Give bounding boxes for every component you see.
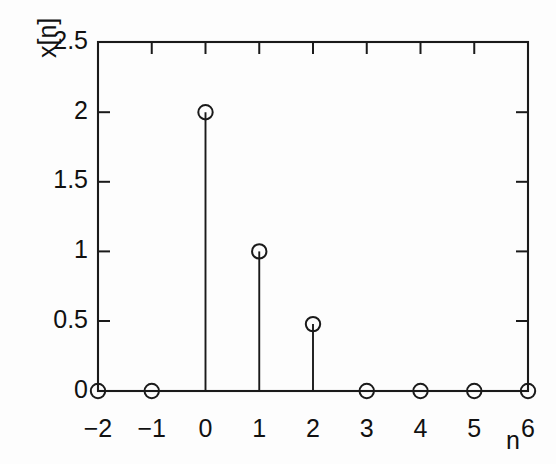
x-tick-label: 6 [521,414,535,442]
stem-plot: 2.5 2 1.5 1 0.5 0 −2 −1 0 1 2 3 4 5 6 x[… [0,0,556,464]
x-axis-ticks [152,42,475,54]
x-tick-label: 1 [252,414,266,442]
x-axis-label: n [506,426,520,454]
x-tick-label: 2 [306,414,320,442]
x-tick-labels: −2 −1 0 1 2 3 4 5 6 [84,414,535,442]
x-tick-label: 5 [467,414,481,442]
figure-canvas: 2.5 2 1.5 1 0.5 0 −2 −1 0 1 2 3 4 5 6 x[… [0,0,556,464]
y-tick-label: 0.5 [53,305,88,333]
y-axis-label: x[n] [33,18,61,58]
x-tick-label: 0 [199,414,213,442]
x-tick-label: −2 [84,414,113,442]
y-tick-label: 1.5 [53,165,88,193]
y-tick-label: 2 [74,96,88,124]
y-axis-ticks [98,112,528,321]
y-tick-label: 0 [74,375,88,403]
stem-lines [206,112,314,391]
x-tick-label: 4 [414,414,428,442]
x-tick-label: 3 [360,414,374,442]
y-tick-label: 1 [74,235,88,263]
x-tick-label: −1 [137,414,166,442]
y-tick-labels: 2.5 2 1.5 1 0.5 0 [53,26,88,403]
